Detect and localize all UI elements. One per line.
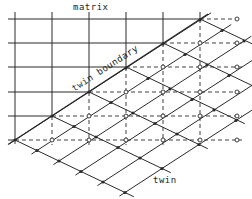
- matrix-lattice: [8, 12, 237, 140]
- twin-lattice-diagram: [0, 0, 252, 199]
- twin-lattice: [8, 13, 252, 197]
- twin-label: twin: [153, 175, 177, 185]
- matrix-dashed-lattice: [15, 19, 242, 145]
- matrix-label: matrix: [73, 2, 109, 12]
- lattice-nodes: [13, 17, 245, 194]
